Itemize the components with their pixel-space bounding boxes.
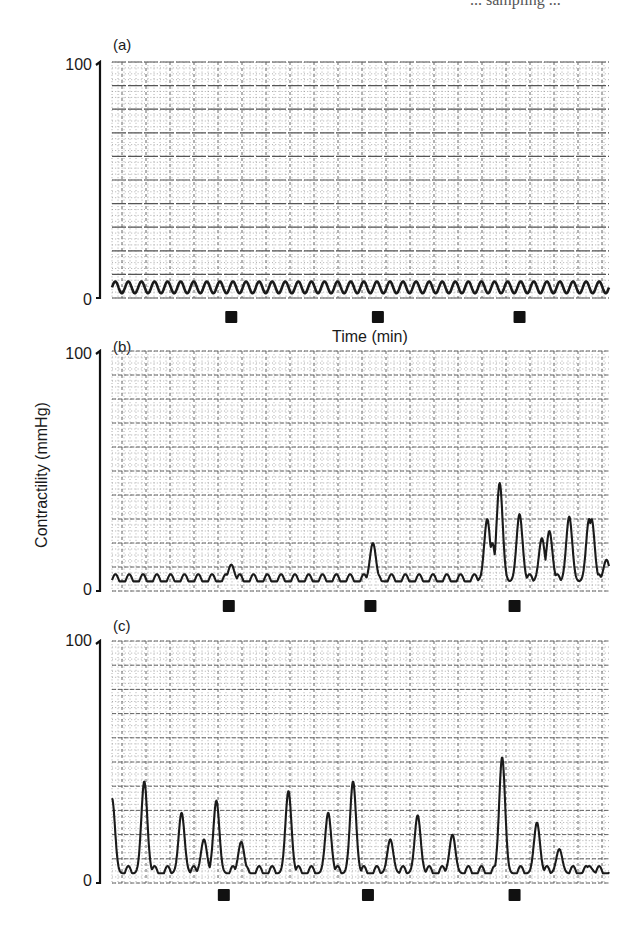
panel-a-stimulus-marker-1 <box>225 311 237 323</box>
figure: ... sampling ... (a) 100 0 Time (min) (b… <box>0 0 640 927</box>
panel-a-stimulus-marker-3 <box>514 311 526 323</box>
panel-a-grid <box>112 62 609 298</box>
panel-c-trace <box>112 758 609 874</box>
panel-b-stimulus-marker-3 <box>509 600 521 612</box>
panel-b-grid <box>112 351 609 591</box>
panel-c-y-axis <box>96 641 100 883</box>
panel-b-stimulus-marker-2 <box>364 600 376 612</box>
panel-a-trace <box>112 282 609 294</box>
panel-c-stimulus-marker-3 <box>509 889 521 901</box>
panel-b-y-axis <box>96 351 100 591</box>
panel-a-y-axis <box>96 62 100 298</box>
panel-a-stimulus-marker-2 <box>372 311 384 323</box>
panel-c-stimulus-marker-1 <box>218 889 230 901</box>
panel-b-stimulus-marker-1 <box>223 600 235 612</box>
chart-canvas <box>0 0 640 927</box>
panel-c-stimulus-marker-2 <box>362 889 374 901</box>
